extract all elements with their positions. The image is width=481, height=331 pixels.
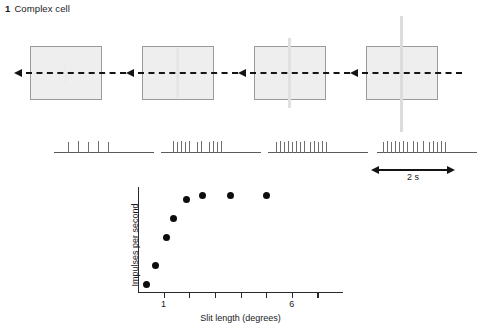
spike-tick — [433, 141, 434, 153]
spike-tick — [217, 142, 218, 153]
motion-axis — [238, 72, 350, 74]
spike-tick — [284, 142, 285, 153]
spike-tick — [98, 141, 99, 153]
data-point — [143, 281, 150, 288]
spike-train-1 — [48, 133, 160, 159]
x-axis-tick-label: 6 — [289, 299, 294, 309]
motion-dashed-line — [362, 72, 462, 74]
spike-tick — [314, 141, 315, 153]
spike-train-4 — [371, 133, 481, 159]
spike-tick — [441, 141, 442, 153]
x-axis-tick — [164, 293, 165, 298]
x-axis-label: Slit length (degrees) — [138, 313, 343, 323]
data-point — [170, 215, 177, 222]
left-arrow-icon — [238, 69, 246, 77]
spike-tick — [296, 141, 297, 153]
spike-baseline — [377, 152, 477, 153]
left-arrow-icon — [14, 69, 22, 77]
spike-tick — [399, 142, 400, 153]
left-arrow-icon — [371, 166, 379, 174]
spike-tick — [310, 142, 311, 153]
spike-tick — [173, 141, 174, 153]
scalebar-line — [379, 169, 447, 171]
spike-tick — [300, 142, 301, 153]
stimulus-panel-1 — [14, 14, 126, 134]
spike-tick — [78, 141, 79, 153]
spike-train-row — [0, 133, 462, 159]
spike-tick — [423, 141, 424, 153]
spike-tick — [88, 142, 89, 153]
spike-tick — [387, 141, 388, 153]
motion-dashed-line — [26, 72, 126, 74]
spike-tick — [318, 142, 319, 153]
left-arrow-icon — [126, 69, 134, 77]
x-axis-tick — [215, 293, 216, 298]
spike-tick — [197, 142, 198, 153]
spike-tick — [189, 141, 190, 153]
spike-tick — [383, 142, 384, 153]
spike-tick — [391, 142, 392, 153]
spike-tick — [292, 142, 293, 153]
spike-train-3 — [262, 133, 374, 159]
stimulus-panel-3 — [238, 14, 350, 134]
spike-tick — [68, 142, 69, 153]
left-arrow-icon — [350, 69, 358, 77]
figure-title: 1Complex cell — [5, 3, 70, 14]
stimulus-panel-2 — [126, 14, 238, 134]
spike-tick — [177, 142, 178, 153]
spike-tick — [185, 142, 186, 153]
x-axis-tick-label: 1 — [161, 299, 166, 309]
right-arrow-icon — [447, 166, 455, 174]
spike-tick — [445, 142, 446, 153]
spike-tick — [209, 142, 210, 153]
spike-tick — [407, 142, 408, 153]
motion-dashed-line — [250, 72, 350, 74]
data-point — [152, 262, 159, 269]
spike-tick — [276, 142, 277, 153]
spike-tick — [280, 141, 281, 153]
spike-tick — [288, 141, 289, 153]
spike-tick — [221, 141, 222, 153]
spike-tick — [417, 142, 418, 153]
x-axis-tick — [317, 293, 318, 298]
stimulus-slit — [400, 16, 403, 132]
spike-tick — [403, 141, 404, 153]
spike-tick — [429, 142, 430, 153]
plot-area — [138, 187, 343, 293]
x-axis-tick — [189, 293, 190, 298]
spike-tick — [108, 142, 109, 153]
response-plot: Impulses per second 16 Slit length (degr… — [100, 183, 360, 331]
spike-train-2 — [155, 133, 267, 159]
spike-tick — [213, 141, 214, 153]
motion-dashed-line — [138, 72, 238, 74]
x-axis-tick — [292, 293, 293, 298]
stimulus-panel-4 — [350, 14, 462, 134]
spike-tick — [395, 141, 396, 153]
spike-baseline — [161, 152, 261, 153]
data-point — [163, 234, 170, 241]
spike-tick — [413, 141, 414, 153]
data-point — [227, 192, 234, 199]
motion-axis — [350, 72, 462, 74]
figure-number: 1 — [5, 3, 10, 14]
data-point — [183, 196, 190, 203]
spike-baseline — [54, 152, 154, 153]
scalebar-label: 2 s — [401, 172, 425, 182]
spike-tick — [181, 141, 182, 153]
spike-tick — [304, 141, 305, 153]
motion-axis — [126, 72, 238, 74]
motion-axis — [14, 72, 126, 74]
stimulus-row — [0, 14, 462, 134]
spike-tick — [322, 141, 323, 153]
figure-title-text: Complex cell — [14, 3, 70, 14]
data-point — [263, 192, 270, 199]
x-axis-tick — [241, 293, 242, 298]
data-point — [199, 192, 206, 199]
spike-tick — [326, 142, 327, 153]
time-scalebar: 2 s — [371, 163, 455, 183]
spike-tick — [201, 141, 202, 153]
spike-tick — [437, 142, 438, 153]
x-axis-tick — [266, 293, 267, 298]
